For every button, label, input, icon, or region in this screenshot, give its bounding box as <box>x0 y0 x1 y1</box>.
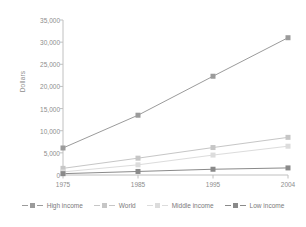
data-point-marker <box>136 169 141 174</box>
legend-item-middle-income[interactable]: Middle income <box>147 202 214 209</box>
data-point-marker <box>136 156 141 161</box>
legend-item-label: Low income <box>250 202 285 209</box>
data-point-marker <box>61 145 66 150</box>
y-axis-tick-label: 30,000 <box>40 39 60 46</box>
legend-marker-icon <box>102 203 107 208</box>
plot-svg <box>63 20 288 175</box>
data-point-marker <box>211 145 216 150</box>
legend-line-icon <box>225 205 231 206</box>
y-axis-tick-label: 35,000 <box>40 17 60 24</box>
data-point-marker <box>136 113 141 118</box>
y-axis-tick-label: 0 <box>56 172 60 179</box>
legend-item-low-income[interactable]: Low income <box>225 202 285 209</box>
data-point-marker <box>211 167 216 172</box>
legend-item-label: High income <box>47 202 83 209</box>
legend-line-icon <box>37 205 43 206</box>
x-axis-tick-label: 1985 <box>131 181 145 188</box>
legend-line-icon <box>147 205 153 206</box>
y-axis-tick-label: 5,000 <box>44 149 60 156</box>
legend-marker-icon <box>155 203 160 208</box>
data-point-marker <box>211 153 216 158</box>
data-point-marker <box>286 35 291 40</box>
data-point-marker <box>211 74 216 79</box>
y-axis-tick-label: 25,000 <box>40 61 60 68</box>
y-axis-tick-label: 15,000 <box>40 105 60 112</box>
y-axis-tick-label: 20,000 <box>40 83 60 90</box>
y-axis-tick-labels: 05,00010,00015,00020,00025,00030,00035,0… <box>18 20 60 175</box>
x-axis-tick-label: 1995 <box>206 181 220 188</box>
legend-marker-icon <box>233 203 238 208</box>
series-line <box>63 38 288 148</box>
legend-line-icon <box>109 205 115 206</box>
legend-item-high-income[interactable]: High income <box>22 202 83 209</box>
legend-line-icon <box>94 205 100 206</box>
legend-line-icon <box>162 205 168 206</box>
data-point-marker <box>136 162 141 167</box>
data-point-marker <box>61 171 66 176</box>
x-axis-tick-labels: 1975198519952004 <box>63 181 288 193</box>
y-axis-tick-label: 10,000 <box>40 127 60 134</box>
legend-line-icon <box>22 205 28 206</box>
line-chart: Dollars 05,00010,00015,00020,00025,00030… <box>0 0 306 227</box>
chart-legend: High incomeWorldMiddle incomeLow income <box>0 202 306 209</box>
legend-item-label: Middle income <box>172 202 214 209</box>
legend-line-icon <box>240 205 246 206</box>
series-line <box>63 137 288 168</box>
plot-area <box>63 20 288 175</box>
legend-marker-icon <box>30 203 35 208</box>
x-axis-tick-label: 2004 <box>281 181 295 188</box>
legend-item-world[interactable]: World <box>94 202 136 209</box>
data-point-marker <box>286 135 291 140</box>
data-point-marker <box>286 165 291 170</box>
legend-item-label: World <box>119 202 136 209</box>
x-axis-tick-label: 1975 <box>56 181 70 188</box>
data-point-marker <box>286 144 291 149</box>
